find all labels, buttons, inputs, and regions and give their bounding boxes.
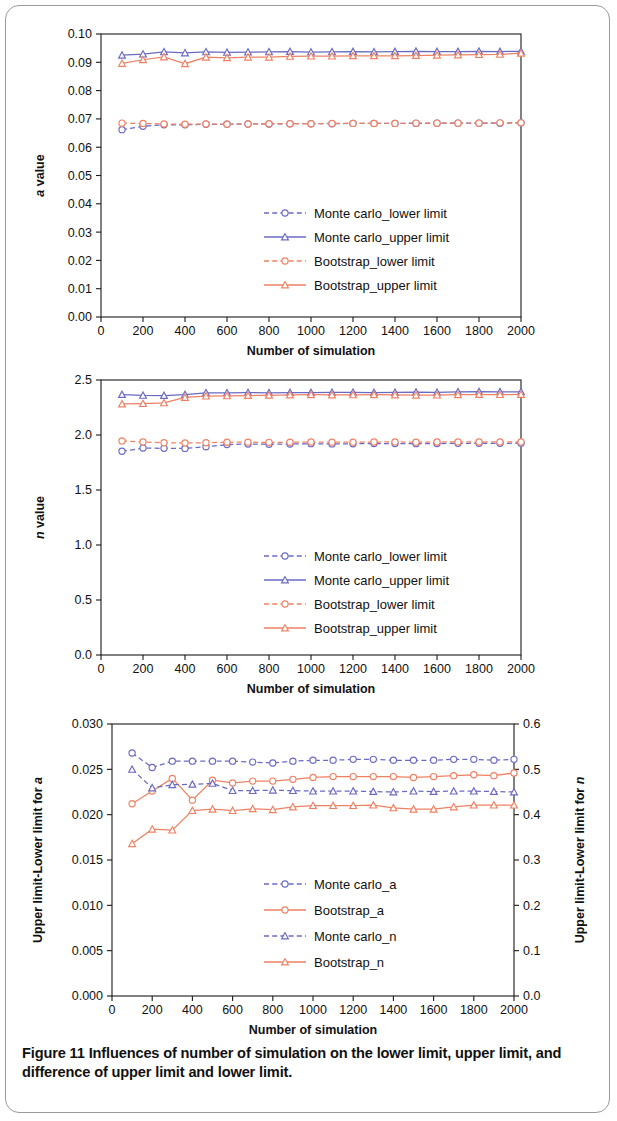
- y-axis-tick-label-left: 0.01: [68, 282, 92, 296]
- x-axis-tick-label: 2000: [507, 324, 535, 338]
- x-axis-title: Number of simulation: [247, 682, 375, 696]
- x-axis-tick-label: 1800: [465, 662, 493, 676]
- data-point-marker: [413, 120, 419, 126]
- legend-label: Bootstrap_lower limit: [314, 597, 435, 612]
- data-point-marker: [491, 757, 497, 763]
- y-axis-tick-label-left: 0.03: [68, 226, 92, 240]
- x-axis-tick-label: 1600: [423, 324, 451, 338]
- x-axis-tick-label: 1000: [297, 662, 325, 676]
- x-axis-tick-label: 800: [259, 662, 280, 676]
- y-axis-tick-label-left: 0.06: [68, 141, 92, 155]
- data-point-marker: [266, 121, 272, 127]
- data-point-marker: [511, 770, 517, 776]
- data-point-marker: [182, 440, 188, 446]
- data-point-marker: [230, 758, 236, 764]
- data-point-marker: [310, 774, 316, 780]
- x-axis-tick-label: 600: [222, 1003, 243, 1017]
- figure-caption-text: Influences of number of simulation on th…: [22, 1045, 561, 1080]
- y-axis-tick-label-left: 1.0: [75, 538, 92, 552]
- y-axis-tick-label-left: 0.030: [72, 717, 103, 731]
- legend-label: Monte carlo_a: [314, 877, 397, 892]
- data-point-marker: [431, 773, 437, 779]
- y-axis-tick-label-left: 0.08: [68, 84, 92, 98]
- data-point-marker: [287, 121, 293, 127]
- legend-label: Monte carlo_upper limit: [314, 573, 450, 588]
- data-point-marker: [149, 764, 155, 770]
- data-point-marker: [511, 756, 517, 762]
- data-point-marker: [476, 439, 482, 445]
- data-point-marker: [250, 778, 256, 784]
- data-point-marker: [129, 750, 135, 756]
- y-axis-tick-label-left: 0.05: [68, 169, 92, 183]
- x-axis-title: Number of simulation: [249, 1023, 377, 1037]
- data-point-marker: [310, 757, 316, 763]
- y-axis-tick-label-left: 0.015: [72, 853, 103, 867]
- legend-label: Bootstrap_lower limit: [314, 254, 435, 269]
- series-line: [132, 769, 514, 792]
- data-point-marker: [282, 258, 288, 264]
- data-point-marker: [270, 778, 276, 784]
- data-point-marker: [371, 439, 377, 445]
- data-point-marker: [455, 120, 461, 126]
- data-point-marker: [129, 766, 136, 772]
- y-axis-tick-label-left: 0.09: [68, 56, 92, 70]
- data-point-marker: [330, 773, 336, 779]
- figure-frame: 0.000.010.020.030.040.050.060.070.080.09…: [5, 5, 610, 1113]
- data-point-marker: [491, 773, 497, 779]
- data-point-marker: [350, 773, 356, 779]
- y-axis-title-right: Upper limit-Lower limit for n: [573, 776, 587, 943]
- y-axis-tick-label-left: 0.5: [75, 593, 92, 607]
- data-point-marker: [451, 756, 457, 762]
- y-axis-tick-label-right: 0.2: [523, 899, 540, 913]
- y-axis-tick-label-left: 2.0: [75, 428, 92, 442]
- x-axis-tick-label: 600: [217, 324, 238, 338]
- data-point-marker: [245, 121, 251, 127]
- y-axis-tick-label-left: 0.02: [68, 254, 92, 268]
- data-point-marker: [140, 439, 146, 445]
- data-point-marker: [290, 758, 296, 764]
- data-point-marker: [161, 440, 167, 446]
- data-point-marker: [209, 758, 215, 764]
- data-point-marker: [350, 439, 356, 445]
- y-axis-tick-label-left: 0.00: [68, 310, 92, 324]
- chart-panel-a-value: 0.000.010.020.030.040.050.060.070.080.09…: [6, 10, 611, 360]
- x-axis-tick-label: 1800: [465, 324, 493, 338]
- data-point-marker: [497, 120, 503, 126]
- x-axis-tick-label: 200: [133, 324, 154, 338]
- data-point-marker: [119, 438, 125, 444]
- chart-panel-limit-difference: 0.0000.0050.0100.0150.0200.0250.0300.00.…: [6, 704, 611, 1044]
- y-axis-tick-label-left: 0.0: [75, 648, 92, 662]
- data-point-marker: [245, 439, 251, 445]
- data-point-marker: [329, 120, 335, 126]
- y-axis-tick-label-right: 0.3: [523, 853, 540, 867]
- data-point-marker: [434, 120, 440, 126]
- x-axis-tick-label: 400: [175, 662, 196, 676]
- data-point-marker: [119, 120, 125, 126]
- data-point-marker: [224, 121, 230, 127]
- data-point-marker: [518, 439, 524, 445]
- plot-area-frame: [101, 34, 521, 317]
- x-axis-tick-label: 1600: [420, 1003, 448, 1017]
- y-axis-tick-label-left: 0.000: [72, 989, 103, 1003]
- x-axis-tick-label: 0: [98, 662, 105, 676]
- data-point-marker: [282, 210, 288, 216]
- data-point-marker: [413, 439, 419, 445]
- y-axis-tick-label-left: 0.10: [68, 27, 92, 41]
- y-axis-tick-label-right: 0.4: [523, 808, 540, 822]
- figure-caption-label: Figure 11: [22, 1045, 85, 1061]
- data-point-marker: [371, 120, 377, 126]
- chart-panel-n-value: 0.00.51.01.52.02.50200400600800100012001…: [6, 358, 611, 706]
- data-point-marker: [518, 120, 524, 126]
- x-axis-tick-label: 1000: [299, 1003, 327, 1017]
- data-point-marker: [250, 759, 256, 765]
- y-axis-tick-label-left: 1.5: [75, 483, 92, 497]
- data-point-marker: [392, 439, 398, 445]
- data-point-marker: [169, 758, 175, 764]
- y-axis-tick-label-left: 2.5: [75, 373, 92, 387]
- x-axis-tick-label: 2000: [507, 662, 535, 676]
- data-point-marker: [140, 445, 146, 451]
- x-axis-tick-label: 2000: [500, 1003, 528, 1017]
- plot-area-frame: [101, 380, 521, 655]
- data-point-marker: [230, 780, 236, 786]
- data-point-marker: [390, 757, 396, 763]
